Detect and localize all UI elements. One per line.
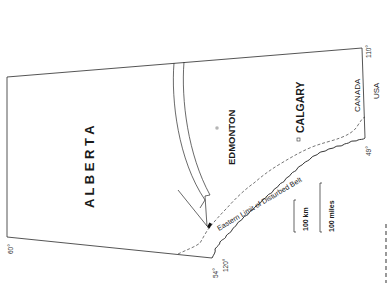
border-label-usa: USA: [372, 82, 381, 99]
border-label-canada: CANADA: [353, 78, 362, 112]
alberta-map: A L B E R T A EDMONTON CALGARY Eastern L…: [0, 0, 389, 283]
coord-lon-110: 110°: [365, 45, 372, 58]
scale-bar-km: 100 km: [294, 200, 309, 232]
scale-label-miles: 100 miles: [328, 200, 335, 232]
coord-lon-120: 120°: [222, 258, 229, 272]
coord-lat-54: 54°: [212, 268, 219, 278]
edmonton-marker-icon: [216, 127, 218, 129]
calgary-marker-icon: [297, 138, 300, 141]
city-label-calgary: CALGARY: [294, 81, 306, 133]
scale-bar-miles: 100 miles: [320, 183, 335, 232]
coord-lat-49: 49°: [365, 146, 372, 156]
coord-lat-60: 60°: [7, 244, 14, 254]
disturbed-belt-limit-line: [178, 117, 365, 254]
disturbed-belt-label: Eastern Limit of Disturbed Belt: [215, 175, 303, 233]
province-label: A L B E R T A: [82, 125, 97, 208]
province-boundary: [7, 48, 365, 258]
arrow-pointer-icon: [173, 62, 210, 226]
city-label-edmonton: EDMONTON: [226, 110, 237, 165]
scale-label-km: 100 km: [302, 207, 309, 231]
